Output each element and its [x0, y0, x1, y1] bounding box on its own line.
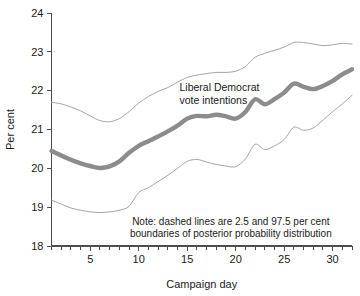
x-tick-label: 5 [87, 253, 93, 265]
note-annotation-line: Note: dashed lines are 2.5 and 97.5 per … [132, 216, 330, 227]
x-tick-label: 10 [133, 253, 145, 265]
x-tick-label: 30 [326, 253, 338, 265]
x-tick-label: 25 [278, 253, 290, 265]
series-annotation-line: Liberal Democrat [179, 81, 259, 93]
y-tick-label: 19 [31, 201, 43, 213]
x-tick-label: 20 [230, 253, 242, 265]
series-annotation-line: vote intentions [179, 94, 247, 106]
x-tick-label: 15 [181, 253, 193, 265]
y-tick-label: 23 [31, 46, 43, 58]
y-axis-title: Per cent [4, 109, 16, 150]
note-annotation-line: boundaries of posterior probability dist… [130, 228, 332, 239]
y-tick-label: 21 [31, 123, 43, 135]
series-line-boundary [52, 95, 353, 212]
chart-container: 1819202122232451015202530Campaign dayPer… [0, 0, 360, 296]
y-tick-label: 24 [31, 7, 43, 19]
y-tick-label: 22 [31, 84, 43, 96]
line-chart: 1819202122232451015202530Campaign dayPer… [0, 0, 360, 296]
y-tick-label: 18 [31, 240, 43, 252]
y-tick-label: 20 [31, 162, 43, 174]
x-axis-title: Campaign day [166, 278, 237, 290]
